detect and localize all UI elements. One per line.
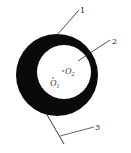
inner-hole xyxy=(37,45,91,99)
leader-line-3 xyxy=(46,113,64,144)
leader-line-1 xyxy=(57,10,79,35)
leader-label-3: 3 xyxy=(95,123,100,132)
center-point-o2 xyxy=(62,70,64,72)
leader-line-3-branch xyxy=(60,127,94,136)
leader-label-2: 2 xyxy=(112,37,117,46)
leader-label-1: 1 xyxy=(80,6,85,15)
eccentric-ring-diagram: O1 O2 1 2 3 xyxy=(0,0,131,153)
